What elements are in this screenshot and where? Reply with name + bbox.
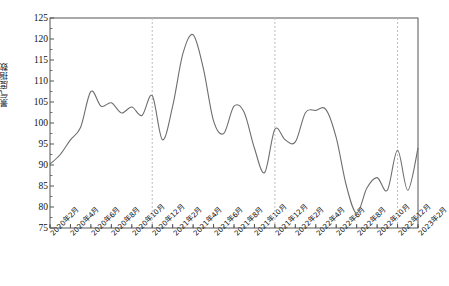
plot-frame (50, 18, 418, 228)
y-axis-ticks (50, 18, 54, 228)
data-series-line (50, 34, 418, 213)
x-axis-ticks (50, 224, 418, 228)
reference-lines (152, 18, 397, 228)
figure-caption (0, 277, 428, 286)
series-line-景气度指数 (50, 34, 418, 213)
